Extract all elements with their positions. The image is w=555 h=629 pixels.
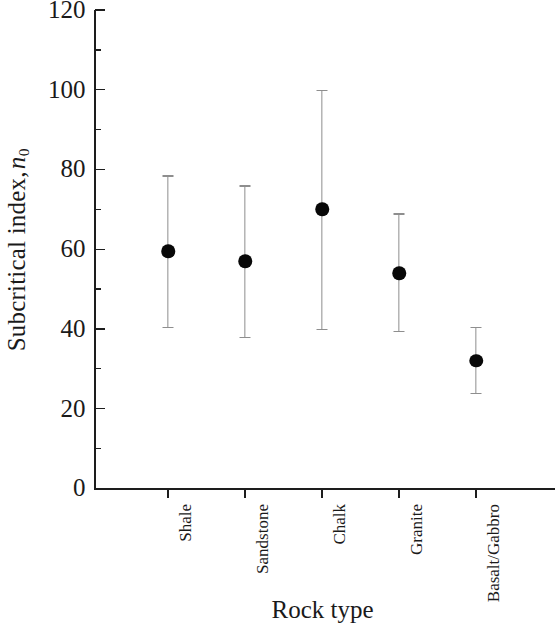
plot-area: 020406080100120 ShaleSandstoneChalkGrani… bbox=[94, 10, 555, 490]
error-bar-cap-lower bbox=[163, 327, 174, 328]
x-category-label: Shale bbox=[177, 504, 195, 542]
y-axis-title-symbol: n0 bbox=[3, 149, 31, 172]
x-category-label: Chalk bbox=[331, 504, 349, 545]
x-tick bbox=[475, 488, 476, 498]
y-tick-major: 80 bbox=[95, 169, 105, 170]
data-point-marker bbox=[161, 244, 175, 258]
y-axis-title: Subcritical index,n0 bbox=[0, 0, 34, 500]
y-tick-label: 40 bbox=[61, 316, 86, 341]
y-tick-major: 0 bbox=[95, 488, 105, 489]
chart-figure: Subcritical index,n0 Rock type 020406080… bbox=[0, 0, 555, 629]
y-tick-minor bbox=[95, 209, 101, 210]
x-category-label: Granite bbox=[408, 504, 426, 555]
y-tick-minor bbox=[95, 368, 101, 369]
data-point-marker bbox=[315, 203, 329, 217]
y-tick-major: 20 bbox=[95, 408, 105, 409]
y-tick-major: 100 bbox=[95, 89, 105, 90]
y-tick-major: 120 bbox=[95, 9, 105, 10]
y-tick-minor bbox=[95, 49, 101, 50]
y-tick-label: 80 bbox=[61, 156, 86, 181]
error-bar-cap-upper bbox=[394, 213, 405, 214]
data-point-marker bbox=[238, 254, 252, 268]
y-tick-label: 60 bbox=[61, 236, 86, 261]
y-tick-label: 0 bbox=[73, 475, 86, 500]
x-axis-line bbox=[94, 488, 555, 490]
y-axis-title-subscript: 0 bbox=[15, 148, 32, 156]
error-bar-cap-upper bbox=[240, 185, 251, 186]
error-bar-cap-lower bbox=[394, 331, 405, 332]
error-bar-cap-lower bbox=[240, 337, 251, 338]
x-tick bbox=[244, 488, 245, 498]
data-point-marker bbox=[469, 354, 483, 368]
y-tick-label: 120 bbox=[48, 0, 86, 22]
y-tick-label: 100 bbox=[48, 77, 86, 102]
error-bar-cap-upper bbox=[317, 90, 328, 91]
y-tick-label: 20 bbox=[61, 396, 86, 421]
error-bar-cap-lower bbox=[317, 329, 328, 330]
x-category-label: Basalt/Gabbro bbox=[485, 504, 503, 602]
x-tick bbox=[398, 488, 399, 498]
y-axis-title-text: Subcritical index, bbox=[3, 171, 31, 351]
y-tick-minor bbox=[95, 288, 101, 289]
error-bar-cap-lower bbox=[471, 393, 482, 394]
y-tick-minor bbox=[95, 129, 101, 130]
error-bar-cap-upper bbox=[163, 175, 174, 176]
y-tick-major: 40 bbox=[95, 328, 105, 329]
x-tick bbox=[167, 488, 168, 498]
x-tick bbox=[321, 488, 322, 498]
y-axis-line bbox=[94, 10, 96, 490]
y-tick-minor bbox=[95, 448, 101, 449]
y-tick-major: 60 bbox=[95, 249, 105, 250]
error-bar-cap-upper bbox=[471, 327, 482, 328]
data-point-marker bbox=[392, 266, 406, 280]
x-category-label: Sandstone bbox=[254, 504, 272, 574]
